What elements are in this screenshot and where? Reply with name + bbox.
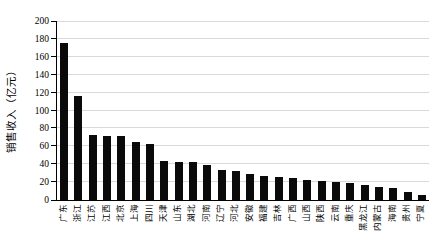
x-tick-label-广东: 广东: [59, 204, 68, 222]
bar-河北: [232, 171, 240, 200]
gridline-y-200: [57, 21, 429, 22]
bar-福建: [260, 176, 268, 200]
y-tick-label-20: 20: [19, 177, 49, 187]
x-tick-label-海南: 海南: [388, 204, 397, 222]
bar-河南: [203, 165, 211, 200]
bar-内蒙古: [375, 187, 383, 200]
y-tick-label-120: 120: [19, 88, 49, 98]
x-tick-label-宁夏: 宁夏: [416, 204, 425, 222]
bar-陕西: [318, 181, 326, 200]
bar-广东: [60, 43, 68, 200]
x-tick-label-江西: 江西: [102, 204, 111, 222]
bar-浙江: [74, 96, 82, 200]
x-tick-label-陕西: 陕西: [316, 204, 325, 222]
x-tick-label-河南: 河南: [202, 204, 211, 222]
bar-辽宁: [218, 170, 226, 200]
x-tick-label-湖北: 湖北: [187, 204, 196, 222]
x-tick-label-福建: 福建: [259, 204, 268, 222]
bar-江苏: [89, 135, 97, 200]
y-tick-mark-160: [51, 56, 56, 57]
x-tick-label-上海: 上海: [130, 204, 139, 222]
gridline-y-60: [57, 145, 429, 146]
y-tick-mark-80: [51, 127, 56, 128]
y-tick-label-140: 140: [19, 70, 49, 80]
gridline-y-20: [57, 181, 429, 182]
x-tick-label-河北: 河北: [230, 204, 239, 222]
bar-云南: [332, 182, 340, 200]
gridline-y-120: [57, 92, 429, 93]
bar-四川: [146, 144, 154, 200]
x-tick-label-重庆: 重庆: [345, 204, 354, 222]
bar-安徽: [246, 174, 254, 200]
y-tick-label-40: 40: [19, 159, 49, 169]
gridline-y-80: [57, 127, 429, 128]
y-tick-label-200: 200: [19, 16, 49, 26]
y-tick-mark-200: [51, 21, 56, 22]
x-tick-label-四川: 四川: [145, 204, 154, 222]
x-tick-label-内蒙古: 内蒙古: [373, 204, 382, 231]
x-tick-label-天津: 天津: [159, 204, 168, 222]
gridline-y-140: [57, 74, 429, 75]
bar-上海: [132, 142, 140, 200]
plot-area: [56, 21, 429, 201]
y-tick-label-160: 160: [19, 52, 49, 62]
y-tick-mark-140: [51, 74, 56, 75]
gridline-y-160: [57, 56, 429, 57]
bar-山东: [175, 162, 183, 200]
y-axis-title: 销售收入（亿元）: [6, 65, 18, 153]
y-tick-label-100: 100: [19, 106, 49, 116]
bar-江西: [103, 136, 111, 200]
y-tick-mark-40: [51, 163, 56, 164]
gridline-y-100: [57, 110, 429, 111]
bar-天津: [160, 161, 168, 200]
x-tick-label-浙江: 浙江: [73, 204, 82, 222]
x-tick-label-江苏: 江苏: [87, 204, 96, 222]
y-tick-mark-60: [51, 145, 56, 146]
bar-吉林: [275, 177, 283, 200]
y-tick-label-180: 180: [19, 34, 49, 44]
bar-广西: [289, 178, 297, 200]
x-tick-label-云南: 云南: [331, 204, 340, 222]
bar-重庆: [346, 183, 354, 200]
bar-海南: [389, 188, 397, 200]
y-tick-label-60: 60: [19, 141, 49, 151]
x-tick-label-贵州: 贵州: [402, 204, 411, 222]
y-tick-mark-20: [51, 181, 56, 182]
y-tick-label-80: 80: [19, 123, 49, 133]
x-tick-label-山西: 山西: [302, 204, 311, 222]
y-tick-mark-120: [51, 92, 56, 93]
y-tick-label-0: 0: [19, 195, 49, 205]
gridline-y-40: [57, 163, 429, 164]
bar-贵州: [404, 192, 412, 200]
y-tick-mark-100: [51, 110, 56, 111]
bar-山西: [303, 180, 311, 200]
x-tick-label-安徽: 安徽: [245, 204, 254, 222]
bar-宁夏: [418, 195, 426, 200]
gridline-y-180: [57, 38, 429, 39]
x-tick-label-吉林: 吉林: [273, 204, 282, 222]
bar-北京: [117, 136, 125, 200]
x-tick-label-辽宁: 辽宁: [216, 204, 225, 222]
x-tick-label-黑龙江: 黑龙江: [359, 204, 368, 231]
bar-黑龙江: [361, 185, 369, 200]
y-tick-mark-180: [51, 38, 56, 39]
x-tick-label-北京: 北京: [116, 204, 125, 222]
x-tick-label-山东: 山东: [173, 204, 182, 222]
bar-湖北: [189, 162, 197, 200]
y-tick-mark-0: [51, 200, 56, 201]
x-tick-label-广西: 广西: [288, 204, 297, 222]
bar-chart-figure: 销售收入（亿元） 020406080100120140160180200广东浙江…: [0, 0, 443, 245]
